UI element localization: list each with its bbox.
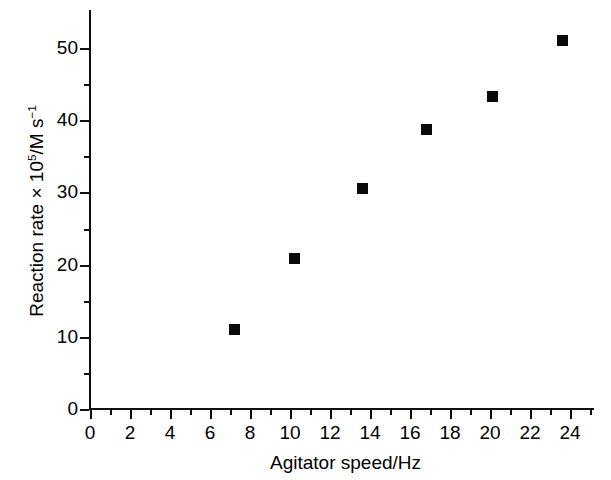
x-axis-tick-label: 20 — [470, 422, 510, 444]
data-point — [557, 35, 568, 46]
y-axis-title-exponent-5: 5 — [25, 154, 38, 161]
y-axis-major-tick — [80, 337, 89, 339]
x-axis-minor-tick — [190, 410, 192, 415]
y-axis-title-mid: /M s — [26, 119, 47, 155]
x-axis-minor-tick — [510, 410, 512, 415]
x-axis-minor-tick — [150, 410, 152, 415]
x-axis-tick-label: 14 — [350, 422, 390, 444]
x-axis-minor-tick — [350, 410, 352, 415]
y-axis-minor-tick — [84, 229, 89, 231]
data-points-layer — [90, 10, 587, 409]
x-axis-major-tick — [130, 410, 132, 419]
x-axis-minor-tick — [470, 410, 472, 415]
x-axis-title: Agitator speed/Hz — [0, 452, 611, 474]
x-axis-minor-tick — [110, 410, 112, 415]
x-axis-tick-label: 8 — [230, 422, 270, 444]
y-axis-major-tick — [80, 48, 89, 50]
x-axis-major-tick — [370, 410, 372, 419]
x-axis-major-tick — [450, 410, 452, 419]
y-axis-minor-tick — [84, 301, 89, 303]
x-axis-minor-tick — [310, 410, 312, 415]
y-axis-major-tick — [80, 265, 89, 267]
x-axis-tick-label: 6 — [190, 422, 230, 444]
scatter-chart-figure: 024681012141618202224 01020304050 Agitat… — [0, 0, 611, 480]
x-axis-tick-label: 4 — [150, 422, 190, 444]
y-axis-minor-tick — [84, 84, 89, 86]
x-axis-major-tick — [90, 410, 92, 419]
y-axis-title-lead: Reaction rate × 10 — [26, 161, 47, 317]
x-axis-major-tick — [170, 410, 172, 419]
data-point — [229, 324, 240, 335]
x-axis-major-tick — [570, 410, 572, 419]
y-axis-minor-tick — [84, 373, 89, 375]
x-axis-tick-label: 10 — [270, 422, 310, 444]
x-axis-major-tick — [290, 410, 292, 419]
x-axis-minor-tick — [590, 410, 592, 415]
x-axis-minor-tick — [270, 410, 272, 415]
x-axis-major-tick — [490, 410, 492, 419]
y-axis-major-tick — [80, 409, 89, 411]
x-axis-major-tick — [330, 410, 332, 419]
x-axis-major-tick — [410, 410, 412, 419]
data-point — [487, 91, 498, 102]
x-axis-tick-label: 12 — [310, 422, 350, 444]
x-axis-tick-label: 18 — [430, 422, 470, 444]
data-point — [289, 253, 300, 264]
x-axis-tick-label: 16 — [390, 422, 430, 444]
y-axis-minor-tick — [84, 156, 89, 158]
y-axis-title-exponent-minus1: −1 — [25, 105, 38, 118]
x-axis-minor-tick — [550, 410, 552, 415]
data-point — [357, 183, 368, 194]
x-axis-major-tick — [210, 410, 212, 419]
x-axis-tick-label: 22 — [510, 422, 550, 444]
y-axis-title: Reaction rate × 105/M s−1 — [26, 11, 48, 411]
x-axis-tick-label: 2 — [110, 422, 150, 444]
x-axis-minor-tick — [230, 410, 232, 415]
y-axis-major-tick — [80, 192, 89, 194]
data-point — [421, 124, 432, 135]
y-axis-major-tick — [80, 120, 89, 122]
x-axis-minor-tick — [390, 410, 392, 415]
x-axis-tick-label: 24 — [550, 422, 590, 444]
x-axis-major-tick — [250, 410, 252, 419]
x-axis-minor-tick — [430, 410, 432, 415]
x-axis-major-tick — [530, 410, 532, 419]
